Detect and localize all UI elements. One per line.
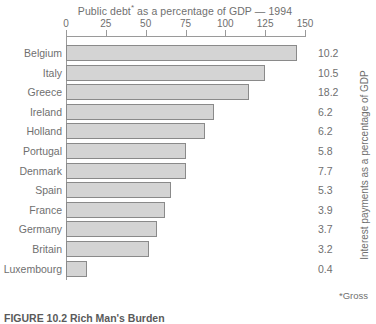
data-value-label: 0.4 [318,261,348,277]
bar [66,143,186,159]
bar-row [66,202,326,218]
x-axis-tick [265,30,266,37]
category-label: Luxembourg [0,261,62,277]
data-value-label: 5.8 [318,143,348,159]
bar-row [66,261,326,277]
figure-caption: FIGURE 10.2 Rich Man's Burden [4,312,165,324]
bar [66,241,149,257]
x-axis-tick-label: 0 [63,18,69,29]
data-value-label: 3.9 [318,202,348,218]
data-value-label: 18.2 [318,84,348,100]
x-axis-tick-label: 100 [217,18,234,29]
x-axis-tick-label: 50 [140,18,151,29]
bar-row [66,65,326,81]
bar-row [66,84,326,100]
chart-title-main: Public debt [78,5,131,17]
category-label: Greece [0,84,62,100]
category-label: Germany [0,221,62,237]
x-axis-tick [225,30,226,37]
bar-row [66,182,326,198]
bar [66,221,157,237]
x-axis-tick-label: 125 [257,18,274,29]
public-debt-bar-chart: Public debt* as a percentage of GDP — 19… [0,0,376,324]
bar-row [66,221,326,237]
category-label: Denmark [0,163,62,179]
x-axis-tick-label: 150 [297,18,314,29]
bar [66,84,249,100]
bar [66,45,297,61]
data-value-label: 5.3 [318,182,348,198]
data-value-label: 10.2 [318,45,348,61]
category-label: France [0,202,62,218]
bar-row [66,123,326,139]
x-axis-tick [106,30,107,37]
bar [66,202,165,218]
category-label: Spain [0,182,62,198]
bar-row [66,104,326,120]
category-label: Ireland [0,104,62,120]
bar-row [66,163,326,179]
bar-row [66,45,326,61]
chart-title: Public debt* as a percentage of GDP — 19… [40,3,330,17]
chart-title-rest: as a percentage of GDP — 1994 [134,5,292,17]
bar-row [66,241,326,257]
data-value-label: 10.5 [318,65,348,81]
bar [66,163,186,179]
bar [66,123,205,139]
data-value-label: 6.2 [318,123,348,139]
x-axis-tick [66,30,67,37]
bar-row [66,143,326,159]
category-label: Italy [0,65,62,81]
data-value-label: 6.2 [318,104,348,120]
footnote: *Gross [339,290,368,301]
right-axis-title: Interest payments as a percentage of GDP [359,60,370,270]
data-value-label: 7.7 [318,163,348,179]
category-label: Britain [0,241,62,257]
x-axis-tick-label: 25 [100,18,111,29]
data-value-label: 3.2 [318,241,348,257]
category-label: Holland [0,123,62,139]
bar [66,104,214,120]
x-axis-tick [186,30,187,37]
category-label: Portugal [0,143,62,159]
category-label: Belgium [0,45,62,61]
bar [66,261,87,277]
data-value-label: 3.7 [318,221,348,237]
x-axis-tick [146,30,147,37]
bar [66,182,171,198]
bar [66,65,265,81]
x-axis-tick [305,30,306,37]
x-axis-tick-label: 75 [180,18,191,29]
